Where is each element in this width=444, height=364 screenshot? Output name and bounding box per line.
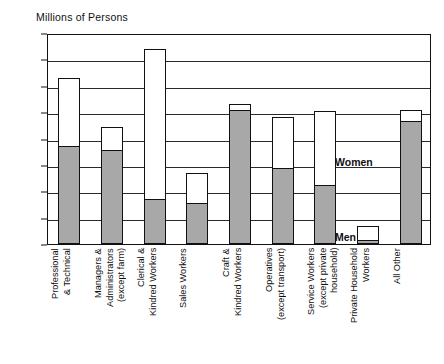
x-axis-label: Professional & Technical — [50, 248, 90, 360]
bar-group[interactable] — [400, 33, 422, 244]
bar-segment-men[interactable] — [357, 240, 379, 244]
bar-segment-men[interactable] — [101, 150, 123, 244]
bar-group[interactable] — [101, 33, 123, 244]
bar-segment-men[interactable] — [272, 168, 294, 244]
bar-segment-men[interactable] — [314, 185, 336, 244]
series-label-men: Men — [335, 231, 356, 243]
x-axis-label: Managers & Administrators (except farm) — [93, 248, 133, 360]
chart-title: Millions of Persons — [36, 11, 128, 23]
bar-group[interactable] — [229, 33, 251, 244]
bar-chart: Millions of Persons 0246810121416 Women … — [0, 0, 444, 364]
bar-segment-men[interactable] — [400, 121, 422, 244]
x-axis-label: Operatives (except transport) — [264, 248, 304, 360]
x-axis-label: Craft & Kindred Workers — [221, 248, 261, 360]
bar-segment-men[interactable] — [229, 110, 251, 245]
bar-segment-men[interactable] — [58, 146, 80, 244]
x-axis-label: Clerical & Kindred Workers — [136, 248, 176, 360]
bar-group[interactable] — [186, 33, 208, 244]
y-axis: 0246810121416 — [0, 0, 47, 364]
bar-segment-men[interactable] — [144, 199, 166, 244]
plot-area: Women Men — [47, 34, 431, 245]
x-axis-label: All Other — [392, 248, 432, 360]
bar-segment-men[interactable] — [186, 203, 208, 244]
x-axis-label: Private Household Workers — [349, 248, 389, 360]
bar-group[interactable] — [357, 33, 379, 244]
bar-group[interactable] — [314, 33, 336, 244]
series-label-women: Women — [335, 156, 373, 168]
bars-layer — [48, 35, 430, 244]
x-axis-labels: Professional & TechnicalManagers & Admin… — [47, 248, 431, 364]
bar-group[interactable] — [272, 33, 294, 244]
bar-group[interactable] — [144, 33, 166, 244]
x-axis-label: Sales Workers — [178, 248, 218, 360]
x-axis-label: Service Workers (except private househol… — [306, 248, 346, 360]
bar-group[interactable] — [58, 33, 80, 244]
